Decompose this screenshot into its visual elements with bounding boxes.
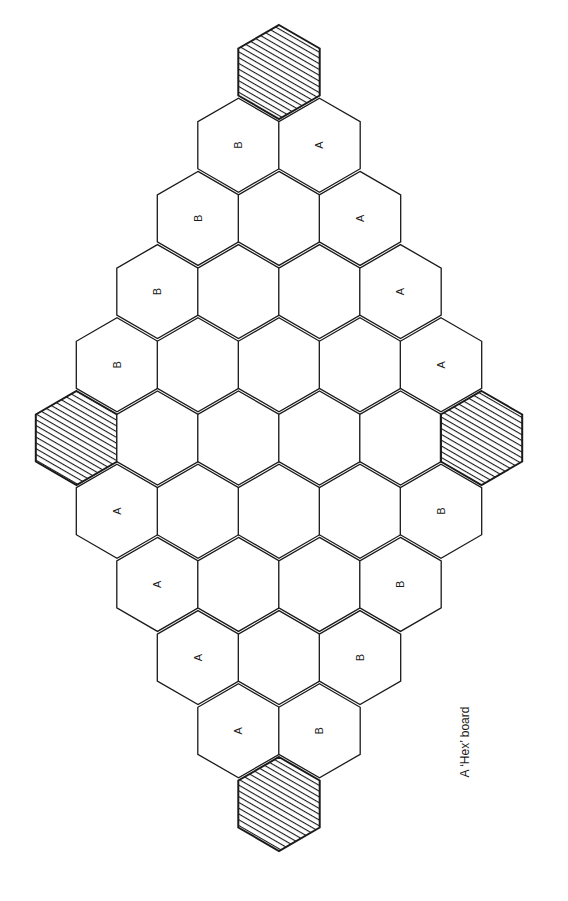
cell-label-a: A <box>314 141 326 149</box>
cell-label-a: A <box>233 726 245 734</box>
cell-label-b: B <box>192 215 204 222</box>
cell-label-a: A <box>192 653 204 661</box>
cell-label-b: B <box>111 361 123 368</box>
cell-label-b: B <box>354 654 366 661</box>
cell-label-a: A <box>395 287 407 295</box>
cell-label-b: B <box>314 727 326 734</box>
cell-label-b: B <box>152 288 164 295</box>
cell-label-a: A <box>111 507 123 515</box>
cell-label-b: B <box>435 508 447 515</box>
cell-label-b: B <box>233 142 245 149</box>
hex-board: BABABABAABABABAB <box>0 0 568 901</box>
cell-label-b: B <box>395 581 407 588</box>
board-caption: A ‘Hex’ board <box>458 707 472 778</box>
cell-label-a: A <box>435 360 447 368</box>
hex-cells: BABABABAABABABAB <box>36 25 522 851</box>
cell-label-a: A <box>152 580 164 588</box>
cell-label-a: A <box>354 214 366 222</box>
